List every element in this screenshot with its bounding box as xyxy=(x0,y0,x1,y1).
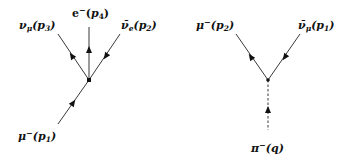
muon-decay-diagram: νμ(p3) e−(p4) ν̄e(p2) μ−(p1) xyxy=(18,5,157,144)
label-muon-p1: μ−(p1) xyxy=(18,128,56,144)
vertex-dot xyxy=(87,78,91,82)
vertex-dot xyxy=(266,78,270,82)
label-pion-q: π−(q) xyxy=(250,140,284,155)
muon-arrow-icon xyxy=(69,98,78,107)
label-nuebar-p2: ν̄e(p2) xyxy=(121,19,157,33)
electron-arrow-icon xyxy=(86,46,92,53)
label-muon-p2: μ−(p2) xyxy=(196,17,234,33)
feynman-diagrams: νμ(p3) e−(p4) ν̄e(p2) μ−(p1) μ−(p2) ν̄μ(… xyxy=(0,0,354,162)
label-numubar-p1: ν̄μ(p1) xyxy=(298,19,335,33)
label-numu-p3: νμ(p3) xyxy=(19,19,56,33)
pion-decay-diagram: μ−(p2) ν̄μ(p1) π−(q) xyxy=(196,17,335,155)
pion-arrow-icon xyxy=(265,106,271,113)
label-electron-p4: e−(p4) xyxy=(72,5,109,21)
